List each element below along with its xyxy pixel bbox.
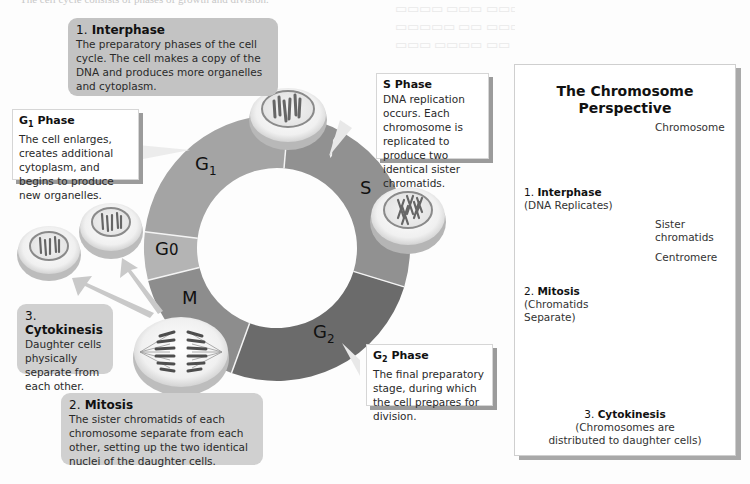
panel-title-line2: Perspective bbox=[515, 100, 735, 117]
mitosis-step-number: 2. bbox=[524, 285, 534, 297]
cytokinesis-title-text: Cytokinesis bbox=[25, 323, 103, 337]
g1-letter: G bbox=[195, 153, 209, 174]
sister-label-line1: Sister bbox=[655, 218, 714, 231]
cytokinesis-step-note-line1: (Chromosomes are bbox=[514, 421, 736, 434]
mitosis-step-note-line1: (Chromatids bbox=[524, 298, 588, 311]
m-letter: M bbox=[182, 287, 198, 308]
s-phase-title: S Phase bbox=[383, 78, 482, 92]
s-phase-callout: S Phase DNA replication occurs. Each chr… bbox=[376, 73, 489, 159]
s-phase-cell-image bbox=[370, 187, 446, 254]
cytokinesis-body: Daughter cells physically separate from … bbox=[25, 337, 105, 393]
mitosis-title: 2. Mitosis bbox=[69, 398, 255, 412]
cytokinesis-number: 3. bbox=[25, 309, 36, 323]
g1-phase-body: The cell enlarges, creates additional cy… bbox=[19, 132, 132, 202]
daughter-cell-image-1 bbox=[17, 226, 81, 281]
g0-subscript: 0 bbox=[169, 241, 179, 259]
interphase-cell-image bbox=[249, 88, 327, 150]
cytokinesis-step-label: 3. Cytokinesis (Chromosomes are distribu… bbox=[514, 408, 736, 447]
interphase-step-note: (DNA Replicates) bbox=[524, 199, 613, 212]
interphase-number: 1. bbox=[76, 23, 87, 37]
interphase-body: The preparatory phases of the cell cycle… bbox=[76, 37, 270, 93]
ring-label-g2: G2 bbox=[313, 321, 335, 346]
interphase-step-number: 1. bbox=[524, 186, 534, 198]
g1-phase-title: G1 Phase bbox=[19, 114, 132, 132]
g1-phase-callout: G1 Phase The cell enlarges, creates addi… bbox=[12, 109, 139, 180]
interphase-title-text: Interphase bbox=[92, 23, 165, 37]
sister-chromatids-label: Sister chromatids bbox=[655, 218, 714, 244]
mitosis-cell-image bbox=[133, 317, 229, 396]
g2-phase-callout: G2 Phase The final preparatory stage, du… bbox=[366, 344, 493, 406]
cytokinesis-title: 3. Cytokinesis bbox=[25, 309, 105, 337]
cytokinesis-step-note-line2: distributed to daughter cells) bbox=[514, 434, 736, 447]
cytokinesis-step-number: 3. bbox=[584, 408, 594, 420]
s-phase-body: DNA replication occurs. Each chromosome … bbox=[383, 92, 482, 190]
panel-title: The Chromosome Perspective bbox=[515, 83, 735, 117]
cytokinesis-callout: 3. Cytokinesis Daughter cells physically… bbox=[17, 304, 113, 374]
mitosis-body: The sister chromatids of each chromosome… bbox=[69, 412, 255, 468]
s-letter: S bbox=[360, 177, 371, 198]
interphase-step-label: 1. Interphase (DNA Replicates) bbox=[524, 186, 613, 212]
ring-label-m: M bbox=[182, 287, 198, 308]
mitosis-title-text: Mitosis bbox=[85, 398, 133, 412]
interphase-title: 1. Interphase bbox=[76, 23, 270, 37]
g1-title-rest: Phase bbox=[34, 114, 75, 127]
ring-label-s: S bbox=[360, 177, 371, 198]
cytokinesis-step-title: Cytokinesis bbox=[598, 408, 666, 420]
sister-label-line2: chromatids bbox=[655, 231, 714, 244]
mitosis-step-title: Mitosis bbox=[537, 285, 579, 297]
g2-phase-title: G2 Phase bbox=[373, 349, 486, 367]
daughter-cell-image-2 bbox=[79, 203, 143, 259]
ring-label-g1: G1 bbox=[195, 153, 217, 178]
g2-phase-body: The final preparatory stage, during whic… bbox=[373, 367, 486, 423]
centromere-label: Centromere bbox=[655, 251, 717, 264]
g1-subscript: 1 bbox=[209, 164, 217, 178]
mitosis-callout: 2. Mitosis The sister chromatids of each… bbox=[61, 393, 263, 465]
g2-title-rest: Phase bbox=[388, 349, 429, 362]
mitosis-step-label: 2. Mitosis (Chromatids Separate) bbox=[524, 285, 588, 324]
mitosis-number: 2. bbox=[69, 398, 80, 412]
chromosome-label: Chromosome bbox=[655, 121, 725, 134]
g1-title-letter: G bbox=[19, 114, 28, 127]
g2-letter: G bbox=[313, 321, 327, 342]
mitosis-step-note-line2: Separate) bbox=[524, 311, 588, 324]
panel-title-line1: The Chromosome bbox=[515, 83, 735, 100]
ring-label-g0: G0 bbox=[155, 238, 179, 259]
interphase-callout: 1. Interphase The preparatory phases of … bbox=[68, 18, 278, 96]
interphase-step-title: Interphase bbox=[537, 186, 601, 198]
g2-subscript: 2 bbox=[327, 332, 335, 346]
g2-title-letter: G bbox=[373, 349, 382, 362]
g0-letter: G bbox=[155, 238, 169, 259]
